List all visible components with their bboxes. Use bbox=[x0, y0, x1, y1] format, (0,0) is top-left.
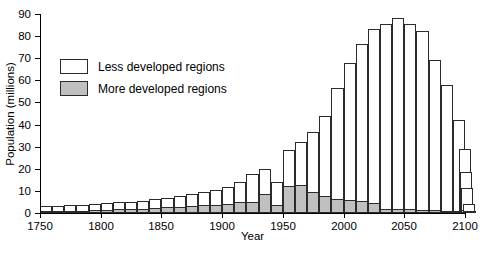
chart-bar bbox=[283, 150, 295, 213]
bar-segment-less-developed bbox=[429, 60, 441, 213]
chart-bar bbox=[319, 116, 331, 213]
y-tick-label: 40 bbox=[0, 119, 31, 131]
y-tick-mark bbox=[35, 80, 40, 81]
chart-bar bbox=[246, 174, 258, 213]
chart-bar bbox=[234, 182, 246, 213]
bar-segment-more-developed bbox=[307, 192, 319, 213]
y-tick-mark bbox=[35, 191, 40, 192]
chart-bar bbox=[441, 85, 453, 213]
bar-segment-more-developed bbox=[246, 202, 258, 213]
chart-bar bbox=[40, 206, 52, 213]
y-tick-mark bbox=[35, 147, 40, 148]
y-tick-label: 70 bbox=[0, 52, 31, 64]
y-tick-mark bbox=[35, 102, 40, 103]
y-tick-mark bbox=[35, 169, 40, 170]
chart-bar bbox=[161, 198, 173, 213]
bar-segment-less-developed bbox=[380, 24, 392, 213]
x-tick-mark bbox=[283, 213, 284, 218]
y-tick-label: 0 bbox=[0, 207, 31, 219]
bar-segment-more-developed bbox=[344, 200, 356, 213]
bar-segment-more-developed bbox=[210, 205, 222, 213]
legend-label: Less developed regions bbox=[98, 60, 225, 74]
y-tick-label: 90 bbox=[0, 8, 31, 20]
x-tick-mark bbox=[222, 213, 223, 218]
x-axis-line bbox=[40, 213, 465, 214]
bar-segment-more-developed bbox=[186, 206, 198, 213]
chart-bar bbox=[125, 202, 137, 213]
chart-bar bbox=[380, 24, 392, 213]
bar-segment-more-developed bbox=[198, 205, 210, 213]
y-tick-label: 50 bbox=[0, 96, 31, 108]
chart-bar bbox=[271, 182, 283, 213]
y-tick-label: 60 bbox=[0, 74, 31, 86]
y-tick-label: 20 bbox=[0, 163, 31, 175]
chart-bar bbox=[113, 202, 125, 213]
bar-segment-more-developed bbox=[234, 202, 246, 213]
chart-bar bbox=[186, 194, 198, 213]
chart-bar bbox=[416, 31, 428, 213]
chart-bar bbox=[137, 201, 149, 213]
chart-bar bbox=[52, 206, 64, 213]
chart-legend: Less developed regionsMore developed reg… bbox=[60, 57, 227, 101]
x-tick-mark bbox=[344, 213, 345, 218]
legend-swatch-more-developed bbox=[60, 81, 88, 96]
chart-bar bbox=[331, 88, 343, 213]
chart-bar bbox=[101, 203, 113, 213]
y-tick-mark bbox=[35, 58, 40, 59]
bar-segment-more-developed bbox=[259, 194, 271, 213]
x-axis-title: Year bbox=[40, 230, 465, 242]
x-tick-mark bbox=[101, 213, 102, 218]
chart-bar bbox=[174, 196, 186, 213]
chart-bar bbox=[368, 29, 380, 213]
y-tick-mark bbox=[35, 36, 40, 37]
bar-segment-more-developed bbox=[331, 199, 343, 213]
y-tick-label: 80 bbox=[0, 30, 31, 42]
bar-segment-more-developed bbox=[295, 185, 307, 213]
x-tick-mark bbox=[161, 213, 162, 218]
chart-bar bbox=[210, 190, 222, 213]
y-axis-line bbox=[40, 14, 41, 214]
chart-bar bbox=[429, 60, 441, 213]
bar-segment-more-developed bbox=[319, 196, 331, 213]
x-tick-mark bbox=[40, 213, 41, 218]
chart-bar bbox=[392, 18, 404, 213]
chart-bar bbox=[222, 187, 234, 213]
legend-label: More developed regions bbox=[98, 82, 227, 96]
bar-segment-less-developed bbox=[404, 24, 416, 213]
x-tick-mark bbox=[404, 213, 405, 218]
y-tick-mark bbox=[35, 125, 40, 126]
bar-segment-more-developed bbox=[283, 186, 295, 213]
chart-bar bbox=[64, 205, 76, 213]
y-tick-label: 30 bbox=[0, 141, 31, 153]
chart-bar bbox=[307, 132, 319, 213]
legend-item: More developed regions bbox=[60, 79, 227, 98]
bar-segment-less-developed bbox=[368, 29, 380, 213]
chart-bar bbox=[295, 142, 307, 213]
bar-segment-less-developed bbox=[331, 88, 343, 213]
bar-segment-more-developed bbox=[222, 204, 234, 214]
chart-bar bbox=[149, 199, 161, 213]
chart-bar bbox=[76, 205, 88, 213]
legend-swatch-less-developed bbox=[60, 59, 88, 74]
chart-bar bbox=[89, 204, 101, 213]
bar-segment-less-developed bbox=[392, 18, 404, 213]
bar-segment-more-developed bbox=[356, 201, 368, 213]
y-tick-label: 10 bbox=[0, 185, 31, 197]
chart-bar bbox=[198, 192, 210, 213]
bar-segment-less-developed bbox=[344, 63, 356, 213]
y-tick-mark bbox=[35, 14, 40, 15]
bar-segment-less-developed bbox=[356, 44, 368, 213]
plot-area: Population (millions) bbox=[40, 14, 465, 213]
legend-item: Less developed regions bbox=[60, 57, 227, 76]
population-bar-chart: Population (millions) 010203040506070809… bbox=[0, 0, 480, 256]
chart-bar bbox=[259, 169, 271, 213]
chart-bar bbox=[404, 24, 416, 213]
bar-segment-more-developed bbox=[271, 205, 283, 213]
bar-segment-less-developed bbox=[441, 85, 453, 213]
chart-bar bbox=[356, 44, 368, 213]
chart-bar bbox=[344, 63, 356, 213]
x-tick-mark bbox=[465, 213, 466, 218]
bar-segment-less-developed bbox=[416, 31, 428, 213]
bar-segment-more-developed bbox=[368, 203, 380, 213]
